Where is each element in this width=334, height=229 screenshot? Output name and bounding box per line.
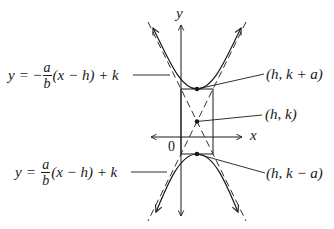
leader-bottom-vertex	[197, 154, 265, 173]
hyperbola-upper-branch	[153, 28, 241, 89]
eq-lhs: y	[8, 68, 15, 83]
eq-rest: (x − h) + k	[53, 68, 119, 83]
x-axis-label: x	[250, 128, 257, 143]
eq-rest: (x − h) + k	[51, 165, 117, 180]
eq-negative: −	[33, 68, 41, 83]
leader-top-vertex	[197, 74, 264, 89]
eq-sign: =	[27, 165, 35, 180]
leader-center	[197, 115, 262, 122]
hyperbola-lower-branch	[156, 154, 238, 212]
eq-fraction: a b	[43, 60, 52, 91]
fraction-numerator: a	[43, 60, 52, 76]
bottom-vertex-label: (h, k − a)	[266, 166, 323, 181]
fraction-numerator: a	[41, 157, 50, 173]
eq-sign: =	[20, 68, 28, 83]
lower-asymptote-equation: y = a b (x − h) + k	[15, 157, 117, 188]
eq-lhs: y	[15, 165, 22, 180]
fraction-denominator: b	[41, 173, 50, 188]
upper-asymptote-equation: y = − a b (x − h) + k	[8, 60, 119, 91]
y-axis-label: y	[176, 6, 183, 21]
center-label: (h, k)	[265, 107, 297, 122]
fraction-denominator: b	[43, 76, 52, 91]
origin-label: 0	[168, 140, 175, 154]
top-vertex-label: (h, k + a)	[266, 67, 323, 82]
eq-fraction: a b	[41, 157, 50, 188]
